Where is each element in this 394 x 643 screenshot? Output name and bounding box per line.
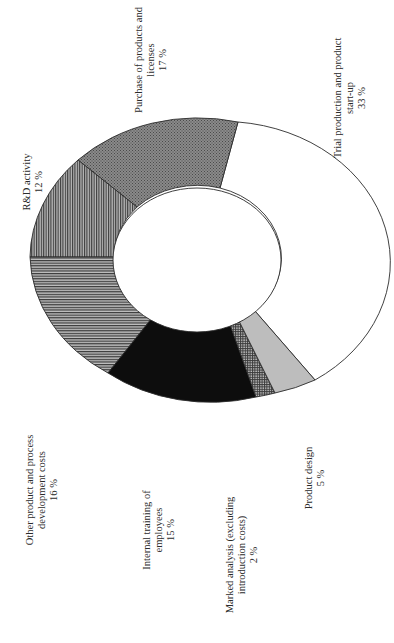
label-line: licenses (145, 43, 156, 76)
label-value: 5 % (315, 469, 326, 486)
donut-chart: Trial production and product start-up 33… (0, 0, 394, 643)
label-value: 15 % (165, 519, 176, 541)
label-line: Product design (303, 446, 314, 509)
label-value: 33 % (356, 87, 367, 109)
label-purchase-products: Purchase of products and licenses 17 % (133, 6, 168, 113)
label-trial-production: Trial production and product start-up 33… (332, 38, 367, 159)
donut-segments (30, 118, 390, 402)
label-other-development: Other product and process development co… (24, 435, 59, 546)
label-value: 17 % (157, 49, 168, 71)
label-internal-training: Internal training of employees 15 % (141, 490, 176, 570)
label-rd-activity: R&D activity 12 % (21, 153, 44, 211)
label-line: Other product and process (24, 435, 35, 546)
label-marked-analysis: Marked analysis (excluding introduction … (224, 496, 259, 613)
label-value: 16 % (48, 479, 59, 501)
label-line: Marked analysis (excluding (224, 496, 236, 613)
label-line: start-up (344, 82, 355, 114)
label-line: R&D activity (21, 153, 32, 211)
label-line: employees (153, 508, 164, 553)
label-line: Internal training of (141, 490, 152, 570)
label-value: 12 % (33, 171, 44, 193)
label-line: introduction costs) (236, 515, 248, 594)
donut-hole (113, 188, 281, 332)
label-line: Trial production and product (332, 38, 343, 159)
label-value: 2 % (248, 546, 259, 563)
label-line: development costs (36, 451, 47, 529)
label-line: Purchase of products and (133, 6, 144, 113)
label-product-design: Product design 5 % (303, 446, 326, 509)
